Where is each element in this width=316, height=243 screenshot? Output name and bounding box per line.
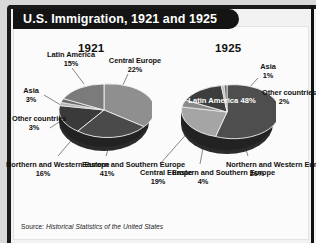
label-pct: 19% [140, 177, 176, 186]
label-1921-northern-western-europe: Northern and Western Europe 16% [6, 160, 80, 178]
label-1921-eastern-southern-europe: Eastern and Southern Europe 41% [82, 160, 132, 178]
label-1925-asia: Asia 1% [250, 62, 286, 80]
label-pct: 15% [34, 59, 108, 68]
label-pct: 22% [104, 65, 166, 74]
label-pct: 2% [262, 97, 306, 106]
figure-frame: U.S. Immigration, 1921 and 1925 1921 192… [0, 0, 316, 243]
label-name: Other countries [12, 114, 66, 123]
label-name: Latin America [47, 50, 95, 59]
label-pct: 3% [14, 95, 48, 104]
page-title: U.S. Immigration, 1921 and 1925 [23, 13, 217, 26]
label-pct: 4% [172, 177, 234, 186]
pie-chart-1925 [178, 74, 276, 160]
label-pct: 1% [250, 71, 286, 80]
source-note: Source: Historical Statistics of the Uni… [21, 223, 163, 230]
label-1925-other-countries: Other countries 2% [262, 88, 306, 106]
pie-1921-svg [56, 74, 152, 158]
source-title: Historical Statistics of the United Stat… [46, 223, 163, 230]
label-name: Other countries [262, 88, 316, 97]
label-name: Central Europe [140, 168, 192, 177]
label-1925-central-europe: Central Europe 19% [140, 168, 176, 186]
year-header-1925: 1925 [215, 42, 241, 54]
pie-1925-svg [178, 74, 276, 160]
label-name: Asia [23, 86, 38, 95]
label-name: Asia [260, 62, 275, 71]
label-1921-central-europe: Central Europe 22% [104, 56, 166, 74]
label-1921-asia: Asia 3% [14, 86, 48, 104]
source-label: Source: [21, 223, 44, 230]
label-pct: 3% [12, 123, 56, 132]
label-1925-latin-america: Latin America 48% [184, 96, 260, 105]
label-1921-latin-america: Latin America 15% [34, 50, 108, 68]
frame-rule-left [7, 5, 11, 243]
label-name: Latin America [188, 96, 238, 105]
label-pct: 16% [6, 169, 80, 178]
label-name: Central Europe [109, 56, 161, 65]
pie-chart-1921 [56, 74, 152, 158]
label-pct: 48% [240, 96, 255, 105]
label-pct: 41% [82, 169, 132, 178]
frame-rule-right [311, 5, 314, 243]
label-1921-other-countries: Other countries 3% [12, 114, 56, 132]
figure-title-tab: U.S. Immigration, 1921 and 1925 [13, 9, 239, 29]
